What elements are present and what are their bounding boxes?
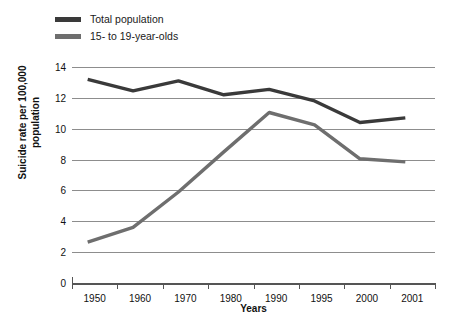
x-axis-title: Years bbox=[72, 303, 435, 314]
y-axis-title: Suicide rate per 100,000 population bbox=[17, 28, 42, 218]
series-line-total-population bbox=[88, 79, 406, 122]
series-line-teens bbox=[88, 113, 406, 243]
legend-label-teens: 15- to 19-year-olds bbox=[90, 31, 178, 42]
y-tick-label-0: 0 bbox=[60, 278, 66, 289]
y-tick-label-12: 12 bbox=[55, 92, 66, 103]
y-tick-label-10: 10 bbox=[55, 123, 66, 134]
y-tick-label-6: 6 bbox=[60, 185, 66, 196]
y-tick-label-14: 14 bbox=[55, 62, 66, 73]
chart-legend: Total population 15- to 19-year-olds bbox=[55, 12, 178, 46]
series-lines bbox=[72, 55, 435, 295]
y-tick-label-2: 2 bbox=[60, 247, 66, 258]
y-tick-label-4: 4 bbox=[60, 216, 66, 227]
legend-swatch-total-population bbox=[55, 17, 81, 22]
y-axis-title-line1: Suicide rate per 100,000 bbox=[17, 66, 28, 180]
y-axis-title-line2: population bbox=[29, 97, 40, 148]
plot-area: 14121086420 1950196019701980199019952000… bbox=[72, 67, 435, 283]
x-tick-8 bbox=[435, 283, 436, 289]
y-tick-label-8: 8 bbox=[60, 154, 66, 165]
legend-swatch-teens bbox=[55, 34, 81, 39]
legend-label-total-population: Total population bbox=[90, 14, 164, 25]
suicide-rate-line-chart: Total population 15- to 19-year-olds Sui… bbox=[0, 0, 455, 327]
legend-item-teens: 15- to 19-year-olds bbox=[55, 29, 178, 44]
legend-item-total-population: Total population bbox=[55, 12, 178, 27]
